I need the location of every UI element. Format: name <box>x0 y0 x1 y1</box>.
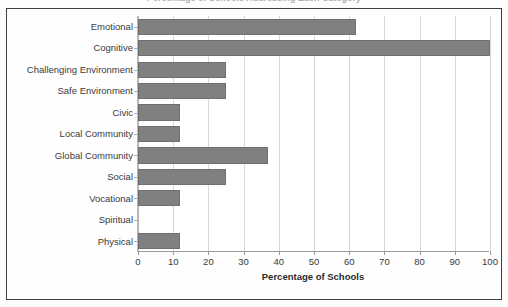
chart-plot-background: 0102030405060708090100EmotionalCognitive… <box>7 9 501 299</box>
bar <box>138 19 356 35</box>
clipped-chart-title: Percentage of Schools Addressing Each Ca… <box>0 0 508 7</box>
y-axis-category-label: Challenging Environment <box>27 59 133 80</box>
y-axis-category-label: Emotional <box>91 16 133 37</box>
x-axis-tick-label: 70 <box>379 256 390 267</box>
chart-frame: 0102030405060708090100EmotionalCognitive… <box>6 8 502 300</box>
y-axis-category-label: Global Community <box>55 145 133 166</box>
bar-row: Cognitive <box>138 37 489 58</box>
y-axis-category-label: Civic <box>112 102 133 123</box>
x-axis-tick-label: 20 <box>203 256 214 267</box>
bar <box>138 233 180 249</box>
bar-row: Spiritual <box>138 209 489 230</box>
bar <box>138 147 268 163</box>
bar-row: Global Community <box>138 145 489 166</box>
bar-row: Challenging Environment <box>138 59 489 80</box>
bar <box>138 190 180 206</box>
x-axis-tick <box>490 251 491 255</box>
clipped-chart-title-text: Percentage of Schools Addressing Each Ca… <box>0 0 508 3</box>
y-axis-tick <box>134 220 138 221</box>
x-axis-tick-label: 90 <box>450 256 461 267</box>
bar-row: Vocational <box>138 188 489 209</box>
y-axis-category-label: Physical <box>98 231 133 252</box>
plot-area: 0102030405060708090100EmotionalCognitive… <box>137 16 489 252</box>
x-axis-tick-label: 60 <box>344 256 355 267</box>
bar <box>138 62 226 78</box>
x-axis-tick-label: 10 <box>168 256 179 267</box>
bar-row: Local Community <box>138 123 489 144</box>
x-axis-tick-label: 80 <box>414 256 425 267</box>
bar <box>138 83 226 99</box>
bar-row: Social <box>138 166 489 187</box>
y-axis-category-label: Social <box>107 166 133 187</box>
bar <box>138 169 226 185</box>
x-axis-tick-label: 100 <box>482 256 498 267</box>
y-axis-category-label: Local Community <box>60 123 133 144</box>
y-axis-category-label: Safe Environment <box>57 80 133 101</box>
x-axis-tick-label: 40 <box>274 256 285 267</box>
bar-row: Safe Environment <box>138 80 489 101</box>
x-axis-tick-label: 30 <box>238 256 249 267</box>
bar-row: Physical <box>138 231 489 252</box>
x-axis-tick-label: 50 <box>309 256 320 267</box>
x-axis-title: Percentage of Schools <box>137 271 489 282</box>
bar <box>138 126 180 142</box>
y-axis-category-label: Cognitive <box>93 37 133 58</box>
x-axis-tick-label: 0 <box>135 256 140 267</box>
y-axis-category-label: Vocational <box>89 188 133 209</box>
chart-figure: Percentage of Schools Addressing Each Ca… <box>0 0 508 307</box>
bar-row: Emotional <box>138 16 489 37</box>
bar <box>138 40 490 56</box>
x-gridline <box>490 16 491 251</box>
y-axis-category-label: Spiritual <box>99 209 133 230</box>
bar <box>138 104 180 120</box>
bar-row: Civic <box>138 102 489 123</box>
